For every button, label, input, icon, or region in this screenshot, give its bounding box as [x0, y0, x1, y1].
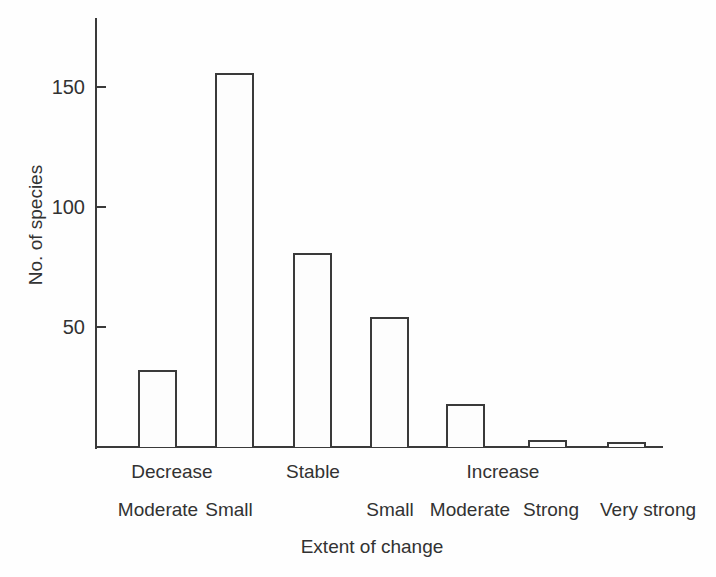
y-tick-label: 150: [30, 76, 85, 98]
y-axis-title: No. of species: [25, 165, 46, 285]
bar: [293, 253, 332, 447]
group-label-decrease: Decrease: [131, 461, 212, 482]
group-label-increase: Increase: [467, 461, 540, 482]
y-tick: [97, 326, 106, 328]
bar-sublabel: Moderate: [118, 499, 198, 520]
y-axis-line: [95, 18, 97, 449]
group-label-stable: Stable: [286, 461, 340, 482]
x-axis-title: Extent of change: [301, 536, 444, 557]
bar: [370, 317, 409, 447]
bar-sublabel: Very strong: [600, 499, 696, 520]
bar: [528, 440, 567, 447]
y-tick: [97, 206, 106, 208]
bar: [607, 442, 646, 447]
y-tick: [97, 86, 106, 88]
bar-chart-figure: 50100150ModerateSmallSmallModerateStrong…: [0, 0, 716, 577]
bar-sublabel: Moderate: [430, 499, 510, 520]
y-tick-label: 50: [30, 316, 85, 338]
bar-sublabel: Small: [205, 499, 253, 520]
bar: [446, 404, 485, 447]
bar-sublabel: Strong: [523, 499, 579, 520]
bar: [138, 370, 177, 447]
bar: [215, 73, 254, 447]
bar-sublabel: Small: [366, 499, 414, 520]
